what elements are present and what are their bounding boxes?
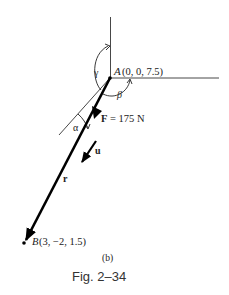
unit-vector-u xyxy=(82,141,96,162)
position-vector-r xyxy=(26,78,110,240)
point-b-coords: (3, −2, 1.5) xyxy=(39,236,87,248)
gamma-label: γ xyxy=(93,67,99,78)
subfigure-label: (b) xyxy=(102,253,113,264)
force-value: = 175 N xyxy=(107,113,145,124)
point-b-name: B xyxy=(32,236,39,247)
point-b-marker xyxy=(22,241,26,245)
diagram-canvas: A (0, 0, 7.5) γ β α F = 175 N u r B (3, … xyxy=(0,0,229,295)
figure-caption: Fig. 2–34 xyxy=(72,269,126,284)
point-a-coords: (0, 0, 7.5) xyxy=(122,66,164,78)
beta-label: β xyxy=(116,89,122,100)
alpha-label: α xyxy=(73,122,79,133)
unit-vector-label: u xyxy=(95,145,101,156)
point-a-marker xyxy=(108,76,112,80)
position-vector-label: r xyxy=(63,173,68,184)
force-label: F = 175 N xyxy=(101,113,145,124)
point-a-name: A xyxy=(113,65,121,77)
